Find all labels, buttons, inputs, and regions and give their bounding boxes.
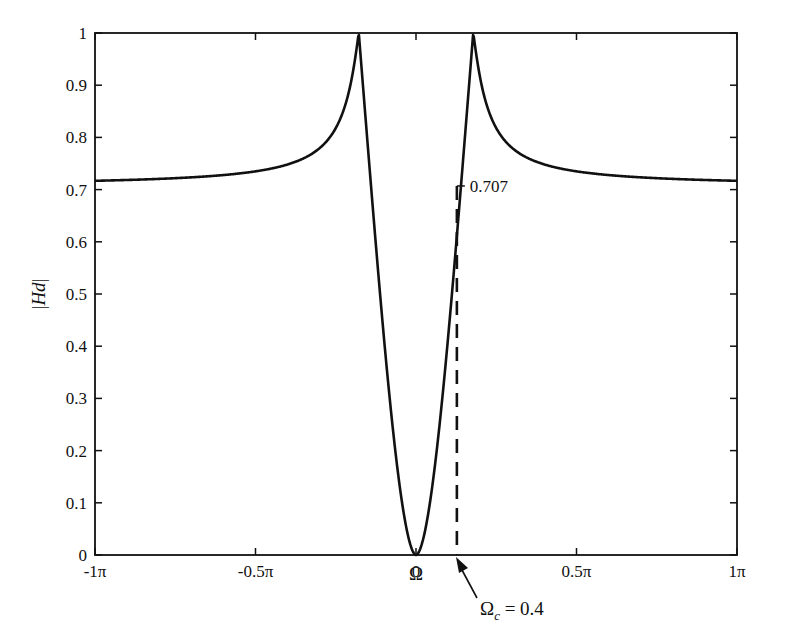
svg-text:|Hd|: |Hd| — [28, 279, 49, 310]
y-tick-label: 0.4 — [66, 337, 88, 356]
cutoff-annotation: Ωc = 0.4 — [456, 557, 544, 623]
x-tick-label: 1π — [728, 562, 746, 581]
annotation-0707-label: 0.707 — [470, 177, 509, 196]
y-tick-label: 0.2 — [66, 442, 87, 461]
y-label-hd: Hd — [28, 282, 49, 307]
x-tick-label: 0.5π — [562, 562, 592, 581]
arrow-head-icon — [456, 557, 468, 573]
x-axis-label: Ω — [409, 563, 423, 584]
y-tick-label: 0.3 — [66, 389, 87, 408]
y-tick-label: 0.5 — [66, 285, 87, 304]
y-label-bar-right: | — [28, 279, 49, 283]
y-tick-label: 0.9 — [66, 76, 87, 95]
y-axis-ticks: 00.10.20.30.40.50.60.70.80.91 — [66, 24, 737, 565]
y-tick-label: 0.1 — [66, 494, 87, 513]
magnitude-curve — [95, 35, 737, 555]
y-tick-label: 0.8 — [66, 128, 87, 147]
chart: 00.10.20.30.40.50.60.70.80.91 -1π-0.5π00… — [0, 0, 790, 643]
x-tick-label: -0.5π — [238, 562, 274, 581]
y-tick-label: 0.7 — [66, 181, 88, 200]
x-tick-label: -1π — [84, 562, 107, 581]
cutoff-label: Ωc = 0.4 — [480, 598, 544, 623]
y-axis-label: |Hd| — [28, 279, 49, 310]
y-tick-label: 1 — [79, 24, 88, 43]
plot-frame — [95, 33, 737, 555]
x-axis-ticks: -1π-0.5π00.5π1π — [84, 33, 746, 581]
y-tick-label: 0.6 — [66, 233, 87, 252]
